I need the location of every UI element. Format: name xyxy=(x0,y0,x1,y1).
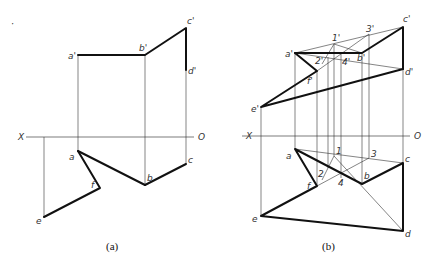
label-e: e xyxy=(252,214,258,224)
front-polyline-afed xyxy=(261,53,403,107)
caption-a: (a) xyxy=(106,240,119,253)
front-view-polyline-a xyxy=(78,28,186,70)
label-b-prime: b' xyxy=(139,43,147,53)
label-1-prime: 1' xyxy=(332,33,340,43)
label-4-prime: 4' xyxy=(342,57,350,67)
projection-drawing: · X O a' b' c' d' a b c f e (a) xyxy=(0,0,428,267)
axis-label-x: X xyxy=(17,132,25,142)
label-b: b xyxy=(147,173,153,183)
label-3-prime: 3' xyxy=(366,24,374,34)
axis-label-o: O xyxy=(198,132,205,142)
label-2-prime: 2' xyxy=(315,56,323,66)
line-1prime-b1 xyxy=(334,44,362,53)
label-b: b xyxy=(364,171,370,181)
label-b-prime: b' xyxy=(357,53,365,63)
label-a-prime: a' xyxy=(285,49,293,59)
label-c-prime: c' xyxy=(187,16,194,26)
caption-b: (b) xyxy=(322,240,335,253)
line-a-c xyxy=(295,149,403,163)
label-c: c xyxy=(405,154,410,164)
label-2: 2 xyxy=(318,169,324,179)
figure-b: X O a' b' c' d' e' f' 1' 2' 3' 4' a b c … xyxy=(242,14,421,253)
label-d-prime: d' xyxy=(188,66,196,76)
label-3: 3 xyxy=(371,149,377,159)
label-a: a xyxy=(69,152,75,162)
top-polygon xyxy=(261,149,403,231)
figure-a: X O a' b' c' d' a b c f e (a) xyxy=(17,16,205,253)
label-d: d xyxy=(405,229,411,239)
axis-label-x: X xyxy=(245,131,253,141)
label-a-prime: a' xyxy=(68,51,76,61)
corner-mark: · xyxy=(11,19,14,29)
axis-label-o: O xyxy=(414,131,421,141)
label-1: 1 xyxy=(336,146,342,156)
label-c: c xyxy=(188,155,193,165)
label-a: a xyxy=(286,151,292,161)
label-c-prime: c' xyxy=(403,14,410,24)
label-f-prime: f' xyxy=(307,76,313,86)
label-4: 4 xyxy=(338,178,344,188)
label-d-prime: d' xyxy=(405,67,413,77)
label-e: e xyxy=(36,216,42,226)
label-e-prime: e' xyxy=(251,104,259,114)
